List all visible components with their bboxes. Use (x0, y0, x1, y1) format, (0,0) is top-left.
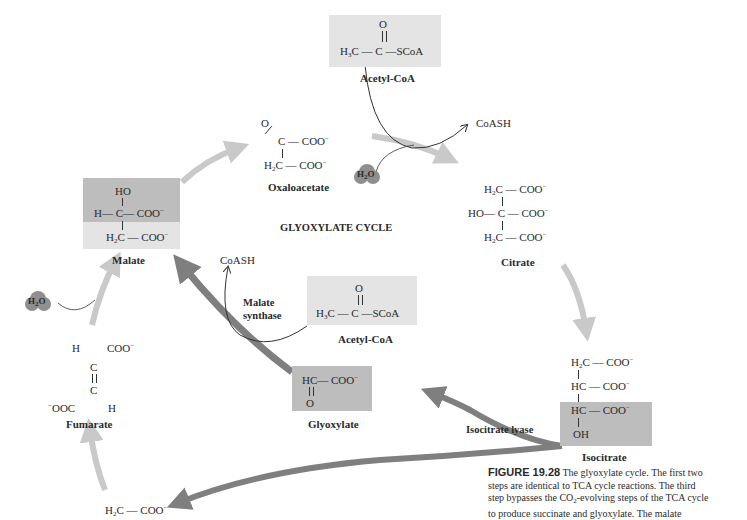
acetyl-coa-top-formula: H3C — C —SCoA (340, 46, 423, 59)
single-bond (578, 394, 579, 402)
fumarate-c1: C (90, 362, 97, 373)
oxaloacetate-oxygen: O (261, 118, 269, 129)
fumarate-h1: H (72, 343, 80, 354)
fumarate-c2: C (90, 385, 97, 396)
diagram-title: GLYOXYLATE CYCLE (280, 222, 392, 233)
single-bond (122, 198, 123, 206)
glyoxylate-oxygen: O (306, 398, 314, 409)
arrow-water-top-in (376, 145, 414, 172)
oxaloacetate-row1: C — COO− (278, 136, 329, 147)
enzyme-malate-synthase: Malatesynthase (243, 296, 282, 322)
double-bond (358, 295, 363, 305)
oxaloacetate-label: Oxaloacetate (268, 181, 329, 193)
figure-number: FIGURE 19.28 (488, 466, 560, 478)
arrow-citrate-to-isocitrate (563, 265, 586, 330)
enzyme-isocitrate-lyase: Isocitrate lyase (466, 424, 533, 435)
single-bond (578, 418, 579, 427)
arrow-malate-to-oxaloacetate (182, 148, 238, 182)
isocitrate-row1: H2C — COO− (571, 357, 633, 370)
isocitrate-row3: HC — COO− (571, 405, 630, 416)
fumarate-label: Fumarate (66, 418, 112, 430)
single-bond (282, 149, 283, 158)
malate-ho: HO (115, 186, 131, 197)
glyoxylate-row1: HC— COO− (302, 375, 358, 386)
oxaloacetate-row2: H2C — COO− (264, 160, 326, 173)
double-bond (382, 31, 387, 42)
acetyl-coa-mid-oxygen: O (355, 283, 363, 294)
glyoxylate-label: Glyoxylate (308, 418, 359, 430)
fumarate-coo1: COO− (107, 343, 134, 354)
citrate-row3: H2C — COO− (484, 232, 546, 245)
single-bond (502, 221, 503, 230)
glyoxylate-box (292, 366, 372, 411)
coash-mid-label: CoASH (220, 255, 255, 266)
acetyl-coa-top-label: Acetyl-CoA (360, 72, 415, 84)
single-bond (122, 221, 123, 230)
arrow-water-left-in (58, 300, 95, 310)
succinate-row1: H2C — COO− (105, 505, 167, 518)
malate-row2: H2C — COO− (106, 232, 168, 245)
double-bond (92, 374, 97, 383)
citrate-row1: H2C — COO− (484, 184, 546, 197)
figure-caption: FIGURE 19.28 The glyoxylate cycle. The f… (488, 466, 747, 520)
malate-label: Malate (112, 254, 145, 266)
coash-top-label: CoASH (476, 118, 511, 129)
water-left-label: H2O (28, 296, 46, 308)
acetyl-coa-mid-label: Acetyl-CoA (338, 333, 393, 345)
fumarate-h2: H (108, 403, 116, 414)
arrow-oxaloacetate-to-citrate (372, 136, 448, 158)
acetyl-coa-top-oxygen: O (379, 19, 387, 30)
arrow-succinate-to-fumarate (90, 430, 105, 490)
fumarate-coo2: −OOC (48, 403, 75, 414)
single-bond (578, 370, 579, 379)
citrate-label: Citrate (501, 256, 535, 268)
isocitrate-row2: HC — COO− (571, 381, 630, 392)
arrow-fumarate-to-malate (92, 262, 115, 325)
double-bond (309, 387, 314, 396)
malate-row1: H— C— COO− (94, 208, 164, 219)
arrow-isocitrate-to-glyoxylate (432, 393, 562, 446)
citrate-row2: HO— C — COO− (468, 208, 549, 219)
isocitrate-label: Isocitrate (582, 451, 627, 463)
single-bond (502, 197, 503, 206)
water-top-label: H2O (357, 169, 375, 181)
acetyl-coa-mid-formula: H3C — C —SCoA (316, 308, 399, 321)
isocitrate-oh: OH (573, 429, 589, 440)
